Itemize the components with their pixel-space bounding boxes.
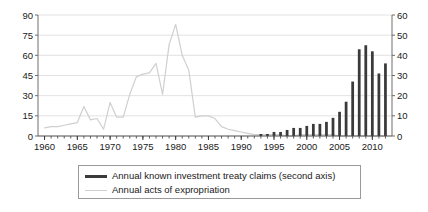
svg-text:40: 40	[397, 50, 408, 61]
thick-line-swatch-icon	[83, 171, 109, 181]
svg-text:1990: 1990	[231, 141, 252, 152]
x-axis-ticklabels: 1960196519701975198019851990199520002005…	[34, 136, 385, 152]
svg-text:0: 0	[28, 131, 33, 142]
svg-text:1965: 1965	[67, 141, 88, 152]
right-axis-ticklabels: 0102030405060	[392, 10, 408, 142]
svg-text:1960: 1960	[34, 141, 55, 152]
svg-text:10: 10	[397, 110, 408, 121]
svg-text:1995: 1995	[263, 141, 284, 152]
gridlines	[38, 15, 392, 116]
svg-text:60: 60	[397, 10, 408, 21]
svg-text:30: 30	[397, 70, 408, 81]
legend-item-expropriation: Annual acts of expropriation	[83, 183, 360, 197]
svg-text:60: 60	[22, 50, 33, 61]
legend-item-label: Annual acts of expropriation	[109, 183, 230, 197]
left-axis-ticklabels: 0153045607590	[22, 10, 38, 142]
svg-text:1970: 1970	[100, 141, 121, 152]
svg-text:90: 90	[22, 10, 33, 21]
legend-item-label: Annual known investment treaty claims (s…	[109, 169, 335, 183]
legend-item-claims: Annual known investment treaty claims (s…	[83, 169, 360, 183]
svg-text:75: 75	[22, 30, 33, 41]
svg-text:1980: 1980	[165, 141, 186, 152]
claims-bar-series	[260, 45, 387, 136]
svg-text:45: 45	[22, 70, 33, 81]
svg-text:1975: 1975	[132, 141, 153, 152]
svg-text:2010: 2010	[362, 141, 383, 152]
svg-text:50: 50	[397, 30, 408, 41]
svg-text:20: 20	[397, 90, 408, 101]
svg-text:1985: 1985	[198, 141, 219, 152]
svg-text:15: 15	[22, 110, 33, 121]
thin-line-swatch-icon	[83, 185, 109, 195]
svg-text:30: 30	[22, 90, 33, 101]
svg-text:2000: 2000	[296, 141, 317, 152]
chart-container: 0153045607590 0102030405060 196019651970…	[0, 0, 428, 212]
svg-text:0: 0	[397, 131, 402, 142]
chart-legend: Annual known investment treaty claims (s…	[78, 165, 361, 199]
svg-text:2005: 2005	[329, 141, 350, 152]
